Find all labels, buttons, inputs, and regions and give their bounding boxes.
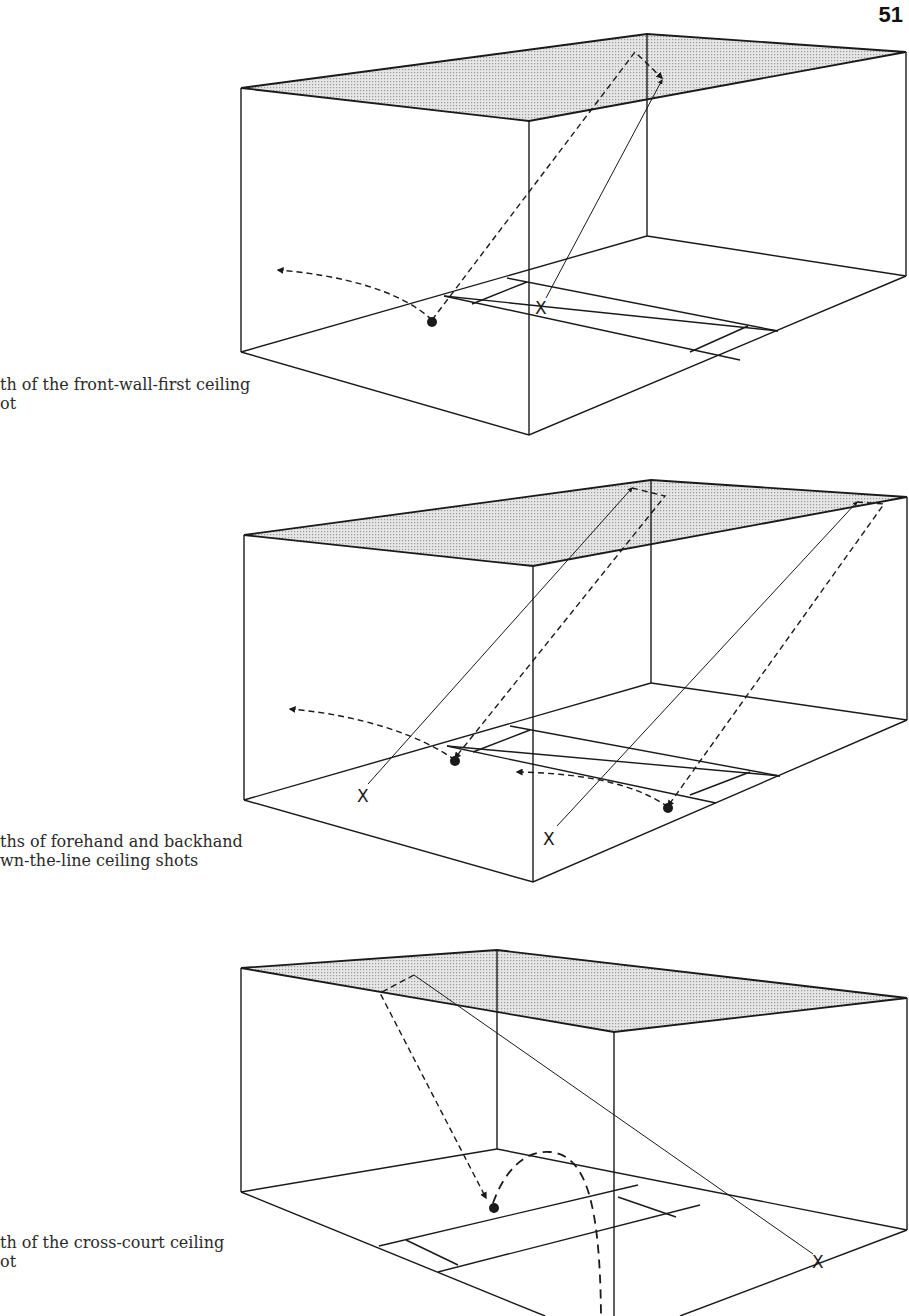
ceiling <box>241 950 907 1032</box>
caption-line: ot <box>0 1252 224 1271</box>
figure-3-caption: th of the cross-court ceiling ot <box>0 1233 224 1271</box>
figure-1-caption: th of the front-wall-first ceiling ot <box>0 375 250 413</box>
caption-line: wn-the-line ceiling shots <box>0 851 243 870</box>
figure-2-down-the-line-ceiling-shots <box>244 480 907 882</box>
figure-3-cross-court-ceiling-shot <box>241 950 907 1316</box>
caption-line: th of the front-wall-first ceiling <box>0 375 250 394</box>
caption-line: ot <box>0 394 250 413</box>
figure-1-front-wall-first-ceiling-shot <box>241 34 906 435</box>
court-diagrams: X X X <box>0 0 909 1316</box>
x-marker: X <box>812 1252 824 1272</box>
caption-line: ths of forehand and backhand <box>0 832 243 851</box>
ceiling <box>244 480 907 566</box>
figure-2-caption: ths of forehand and backhand wn-the-line… <box>0 832 243 870</box>
caption-line: th of the cross-court ceiling <box>0 1233 224 1252</box>
x-marker-left: X <box>357 786 369 806</box>
x-marker: X <box>535 298 547 318</box>
ceiling <box>241 34 906 121</box>
x-marker-right: X <box>543 829 555 849</box>
